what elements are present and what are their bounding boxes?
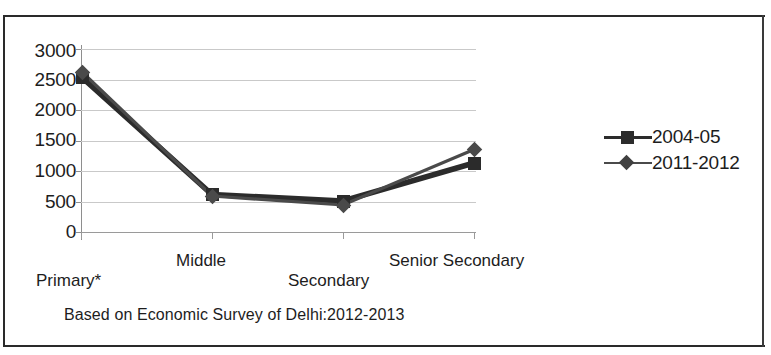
plot-area (81, 49, 476, 232)
x-axis-label-senior-secondary: Senior Secondary (389, 252, 524, 269)
x-tick-mark-primary (81, 232, 82, 239)
legend-item-2004-05[interactable]: 2004-05 (604, 124, 764, 150)
y-tick-label-0: 0 (6, 222, 76, 241)
gridline-0-baseline (81, 232, 476, 233)
y-tick-label-2500: 2500 (6, 70, 76, 89)
legend-diamond-marker-icon (604, 153, 652, 173)
chart-legend: 2004-05 2011-2012 (604, 124, 764, 176)
y-tick-label-1500: 1500 (6, 130, 76, 149)
legend-label-2004-05: 2004-05 (652, 126, 720, 148)
legend-item-2011-2012[interactable]: 2011-2012 (604, 150, 764, 176)
x-axis-label-primary: Primary* (36, 272, 101, 289)
x-axis-label-secondary: Secondary (288, 272, 369, 289)
legend-label-2011-2012: 2011-2012 (652, 152, 740, 174)
x-tick-mark-senior-secondary (474, 232, 475, 239)
x-tick-mark-middle (212, 232, 213, 239)
legend-square-marker-icon (604, 127, 652, 147)
x-tick-mark-secondary (343, 232, 344, 239)
series-lines (81, 49, 476, 232)
y-tick-label-2000: 2000 (6, 100, 76, 119)
series-line-2011-2012 (82, 72, 474, 205)
series-line-2004-05 (82, 78, 474, 202)
y-tick-label-500: 500 (6, 192, 76, 211)
chart-caption: Based on Economic Survey of Delhi:2012-2… (64, 306, 405, 324)
x-axis-label-middle: Middle (176, 252, 226, 269)
data-point-2004-05-senior-secondary (468, 157, 481, 170)
line-chart-figure: 3000 2500 2000 1500 1000 500 0 (0, 0, 771, 355)
y-tick-label-1000: 1000 (6, 161, 76, 180)
y-tick-label-3000: 3000 (6, 41, 76, 60)
